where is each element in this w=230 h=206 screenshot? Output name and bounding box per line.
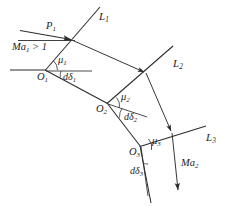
label-outlet-mach-Ma2: Ma2 [181,158,198,170]
label-vertex-O3: O3 [129,147,140,159]
outlet-flow-arrow [172,133,178,190]
expansion-fan-diagram: P1 Ma1 > 1 L1 L2 L3 O1 O2 O3 μ1 μ2 μ3 dδ… [0,0,230,206]
mach-line-L1 [46,7,101,70]
label-turn-angle-d-delta1: dδ1 [63,72,76,83]
streamline-segment-L2-to-L3 [146,73,171,131]
label-turn-angle-d-delta3: dδ3 [130,166,143,177]
label-mach-line-L3: L3 [206,132,216,145]
angle-arc-d-delta-3 [143,164,148,165]
turn-reference-lines [46,71,148,196]
angle-arc-mu-1 [54,61,58,70]
wall-boundary [10,70,151,203]
wall-segment-o1-o2 [45,70,108,104]
label-vertex-O2: O2 [96,104,107,116]
streamline-segment-L1-to-L2 [73,41,144,73]
label-mach-line-L1: L1 [99,11,109,24]
inlet-pressure-label: P1 [22,20,80,33]
label-vertex-O1: O1 [37,72,48,84]
angle-arc-mu-2 [117,98,120,108]
mach-line-L2 [107,46,173,104]
inlet-conditions-label: P1 [22,20,80,33]
label-mach-angle-mu3: μ3 [152,136,161,148]
label-turn-angle-d-delta2: dδ2 [124,112,137,123]
label-mach-angle-mu2: μ2 [121,92,130,104]
angle-arc-d-delta-2 [119,108,122,117]
label-mach-line-L2: L2 [173,58,183,71]
inlet-mach-label: Ma1 > 1 [12,42,47,54]
label-mach-angle-mu1: μ1 [58,55,67,67]
angle-arc-d-delta-1 [60,71,61,78]
